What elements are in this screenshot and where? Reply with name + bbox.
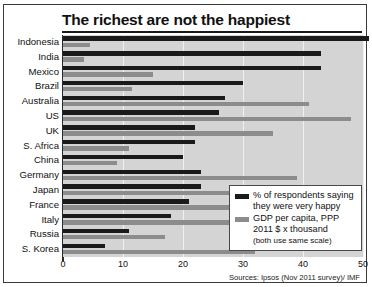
category-label: S. Korea: [5, 243, 59, 254]
bar-group: [63, 50, 363, 65]
bar-gdp: [63, 176, 297, 180]
bar-group: [63, 79, 363, 94]
bar-happy: [63, 51, 321, 55]
bar-happy: [63, 110, 219, 114]
legend-item-happy: % of respondents saying they were very h…: [235, 190, 356, 211]
x-tick-label: 0: [60, 259, 65, 269]
bar-gdp: [63, 43, 90, 47]
legend-item-gdp: GDP per capita, PPP 2011 $ x thousand: [235, 213, 356, 234]
category-label: US: [5, 110, 59, 121]
bar-happy: [63, 155, 183, 159]
bar-gdp: [63, 235, 165, 239]
bar-group: [63, 139, 363, 154]
bar-gdp: [63, 57, 84, 61]
category-axis-labels: IndonesiaIndiaMexicoBrazilAustraliaUSUKS…: [4, 35, 59, 257]
bar-happy: [63, 125, 195, 129]
bar-happy: [63, 214, 171, 218]
bar-happy: [63, 81, 243, 85]
bar-happy: [63, 170, 201, 174]
legend-label-happy: % of respondents saying they were very h…: [253, 190, 356, 211]
category-label: China: [5, 154, 59, 165]
bar-gdp: [63, 161, 117, 165]
gridline-50: [363, 35, 364, 257]
x-axis-tick-labels: 01020304050: [63, 259, 365, 273]
chart-frame: The richest are not the happiest Indones…: [3, 4, 367, 283]
bar-gdp: [63, 146, 129, 150]
bar-happy: [63, 140, 195, 144]
x-tick-label: 40: [298, 259, 308, 269]
chart-legend: % of respondents saying they were very h…: [229, 185, 362, 251]
source-attribution: Sources: Ipsos (Nov 2011 survey)/ IMF: [229, 273, 360, 282]
category-label: France: [5, 199, 59, 210]
bar-gdp: [63, 87, 132, 91]
category-label: Italy: [5, 214, 59, 225]
bar-gdp: [63, 250, 255, 254]
category-label: UK: [5, 125, 59, 136]
category-label: Australia: [5, 95, 59, 106]
bar-group: [63, 124, 363, 139]
x-tick-label: 50: [358, 259, 368, 269]
legend-swatch-dark-icon: [235, 194, 249, 199]
legend-label-gdp: GDP per capita, PPP 2011 $ x thousand: [253, 213, 356, 234]
bar-gdp: [63, 131, 273, 135]
category-label: India: [5, 51, 59, 62]
legend-scale-note: (both use same scale): [253, 236, 356, 246]
bar-group: [63, 65, 363, 80]
x-tick-label: 30: [238, 259, 248, 269]
chart-title: The richest are not the happiest: [62, 11, 362, 29]
category-label: Russia: [5, 228, 59, 239]
bar-happy: [63, 244, 105, 248]
bar-happy: [63, 66, 321, 70]
category-label: Brazil: [5, 80, 59, 91]
bar-gdp: [63, 117, 351, 121]
bar-group: [63, 94, 363, 109]
bar-group: [63, 35, 363, 50]
title-underline: [62, 31, 362, 33]
category-label: S. Africa: [5, 140, 59, 151]
bar-group: [63, 168, 363, 183]
x-tick-label: 10: [118, 259, 128, 269]
bar-gdp: [63, 102, 309, 106]
category-label: Japan: [5, 184, 59, 195]
bar-happy: [63, 199, 189, 203]
legend-swatch-gray-icon: [235, 217, 249, 222]
bar-happy: [63, 229, 129, 233]
category-label: Germany: [5, 169, 59, 180]
category-label: Mexico: [5, 66, 59, 77]
bar-happy: [63, 184, 201, 188]
category-label: Indonesia: [5, 36, 59, 47]
bar-happy: [63, 96, 225, 100]
bar-gdp: [63, 72, 153, 76]
bar-group: [63, 153, 363, 168]
x-tick-label: 20: [178, 259, 188, 269]
bar-group: [63, 109, 363, 124]
bar-happy: [63, 36, 369, 40]
